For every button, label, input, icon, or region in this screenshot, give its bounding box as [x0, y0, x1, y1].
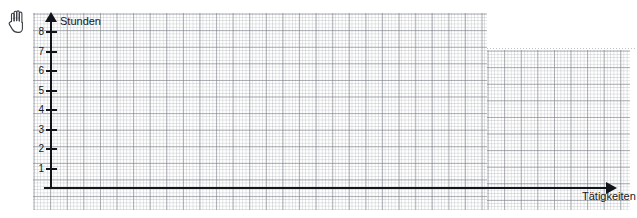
y-axis-tick: 8: [46, 31, 57, 33]
y-axis-tick-label: 6: [38, 66, 44, 76]
y-axis-tick-label: 5: [38, 86, 44, 96]
y-axis-tick: 6: [46, 70, 57, 72]
hand-icon: [5, 7, 31, 35]
y-axis-tick-label: 3: [38, 125, 44, 135]
x-axis-line: [44, 187, 613, 189]
y-axis-line: [50, 20, 52, 189]
y-axis-tick-label: 4: [38, 105, 44, 115]
y-axis-tick-label: 2: [38, 144, 44, 154]
y-axis-tick: 4: [46, 109, 57, 111]
y-axis-tick: 5: [46, 90, 57, 92]
y-axis-tick-label: 1: [38, 164, 44, 174]
x-axis-title: Tätigkeiten: [582, 190, 636, 202]
y-axis-title: Stunden: [60, 15, 101, 27]
graph-paper-main: [33, 13, 487, 210]
paper-edge-dotted-rule: [487, 48, 637, 49]
y-axis-tick: 2: [46, 148, 57, 150]
y-axis-tick: 1: [46, 168, 57, 170]
y-axis-tick: 7: [46, 51, 57, 53]
y-axis-tick: 3: [46, 129, 57, 131]
worksheet-canvas: Stunden 8 7 6 5 4 3 2 1 Tätigkeiten: [0, 0, 637, 218]
y-axis-tick-label: 8: [38, 27, 44, 37]
y-axis-tick-label: 7: [38, 47, 44, 57]
